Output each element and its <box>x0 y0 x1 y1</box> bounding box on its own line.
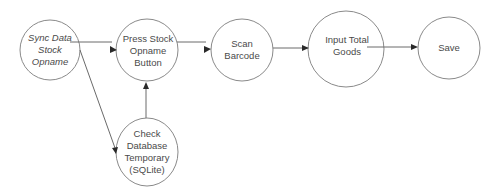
node-input-total-goods <box>308 11 384 87</box>
node-sync-data-stock-opname <box>20 20 80 80</box>
arrowhead-icon <box>204 46 211 53</box>
node-save <box>418 17 480 79</box>
flowchart-canvas <box>0 0 500 196</box>
node-check-database-temporary <box>116 118 178 186</box>
arrowhead-icon <box>143 82 149 89</box>
edge-check-to-press <box>143 82 149 118</box>
node-scan-barcode <box>211 19 273 81</box>
arrowhead-icon <box>411 44 418 50</box>
edge-press-to-scan <box>177 42 211 53</box>
edge-scan-to-input <box>273 45 309 51</box>
node-press-stock-opname-button <box>116 19 178 81</box>
edge-sync-to-check <box>80 50 118 154</box>
